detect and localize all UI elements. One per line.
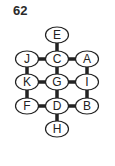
node-K: K [16,74,39,90]
node-label: G [52,75,61,89]
node-label: F [23,99,30,113]
node-J: J [16,51,39,67]
node-D: D [46,98,69,114]
node-I: I [76,74,99,90]
node-label: C [53,52,62,66]
node-E: E [46,27,69,43]
node-label: H [53,122,62,136]
node-label: J [24,52,30,66]
node-label: E [53,28,61,42]
node-label: B [83,99,91,113]
node-F: F [16,98,39,114]
node-H: H [46,121,69,137]
node-label: D [53,99,62,113]
node-graph: EJCAKGIFDBH [0,0,115,166]
node-B: B [76,98,99,114]
node-label: A [83,52,91,66]
node-C: C [46,51,69,67]
node-G: G [46,74,69,90]
node-A: A [76,51,99,67]
node-label: K [23,75,31,89]
node-label: I [85,75,88,89]
